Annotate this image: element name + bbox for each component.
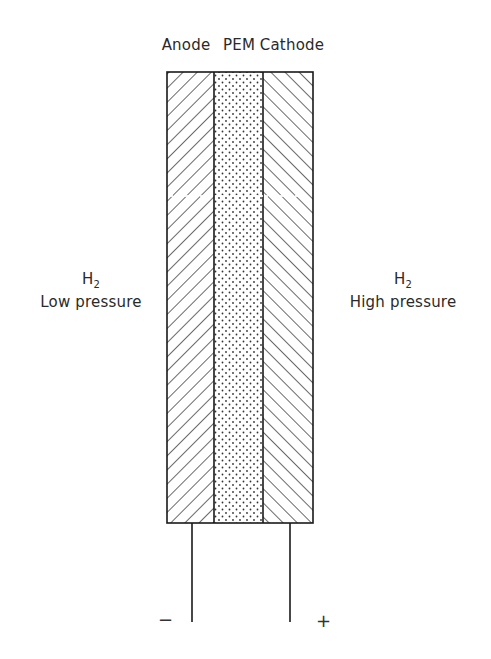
- left-species: H2: [82, 270, 100, 294]
- pem-layer: [214, 72, 263, 523]
- right-condition: High pressure: [350, 293, 457, 311]
- right-species: H2: [394, 270, 412, 294]
- negative-terminal-sign: −: [158, 611, 173, 629]
- pem-cell-diagram: [0, 0, 491, 659]
- positive-terminal-sign: +: [316, 612, 331, 630]
- cathode-layer: [263, 72, 313, 523]
- left-condition: Low pressure: [40, 293, 142, 311]
- anode-layer: [167, 72, 214, 523]
